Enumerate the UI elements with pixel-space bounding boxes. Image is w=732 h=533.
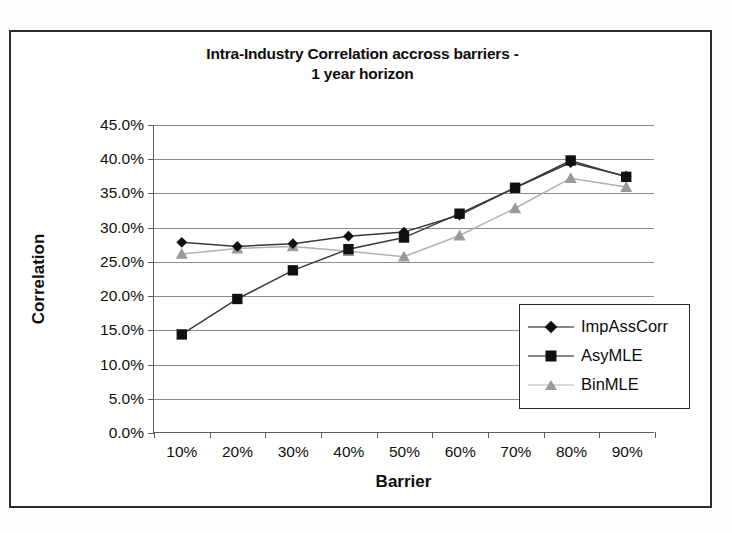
x-tick-label: 20% [222, 443, 253, 461]
square-marker-icon [510, 183, 520, 193]
legend-key-square [528, 347, 574, 365]
triangle-marker-icon [565, 172, 577, 183]
x-tick-mark [210, 432, 211, 438]
y-tick-label: 30.0% [100, 219, 144, 237]
y-tick-label: 20.0% [100, 287, 144, 305]
legend-label: BinMLE [581, 375, 639, 394]
x-tick-mark [488, 432, 489, 438]
square-marker-icon [343, 244, 353, 254]
square-marker-icon [546, 350, 557, 361]
x-tick-mark [599, 432, 600, 438]
x-tick-mark [321, 432, 322, 438]
chart-figure: Intra-Industry Correlation accross barri… [0, 0, 732, 533]
x-tick-label: 50% [389, 443, 420, 461]
y-tick-label: 15.0% [100, 321, 144, 339]
chart-title-line-1: Intra-Industry Correlation accross barri… [11, 44, 714, 64]
y-tick-label: 0.0% [109, 424, 144, 442]
x-tick-label: 40% [333, 443, 364, 461]
legend-item-binmle: BinMLE [520, 370, 689, 399]
x-tick-mark [377, 432, 378, 438]
x-tick-label: 60% [445, 443, 476, 461]
x-tick-mark [544, 432, 545, 438]
x-tick-label: 70% [500, 443, 531, 461]
y-axis-title: Correlation [29, 234, 49, 325]
legend-item-asymle: AsyMLE [520, 341, 689, 370]
triangle-marker-icon [509, 202, 521, 213]
x-tick-label: 90% [612, 443, 643, 461]
chart-border: Intra-Industry Correlation accross barri… [9, 30, 712, 508]
chart-legend: ImpAssCorr AsyMLE BinMLE [519, 304, 690, 409]
triangle-marker-icon [454, 230, 466, 241]
series-line [182, 178, 626, 256]
series-binmle [176, 172, 632, 261]
x-tick-mark [154, 432, 155, 438]
square-marker-icon [232, 294, 242, 304]
diamond-marker-icon [545, 320, 558, 333]
x-tick-mark [655, 432, 656, 438]
y-tick-label: 40.0% [100, 150, 144, 168]
square-marker-icon [288, 265, 298, 275]
x-tick-mark [265, 432, 266, 438]
diamond-marker-icon [176, 237, 187, 248]
legend-label: AsyMLE [581, 346, 642, 365]
y-tick-label: 5.0% [109, 390, 144, 408]
square-marker-icon [399, 232, 409, 242]
x-tick-mark [432, 432, 433, 438]
y-tick-label: 25.0% [100, 253, 144, 271]
legend-key-triangle [528, 376, 574, 394]
x-tick-label: 30% [278, 443, 309, 461]
triangle-marker-icon [545, 380, 557, 390]
legend-key-diamond [528, 318, 574, 336]
legend-item-impasscorr: ImpAssCorr [520, 312, 689, 341]
y-tick-label: 45.0% [100, 116, 144, 134]
chart-title: Intra-Industry Correlation accross barri… [11, 44, 714, 85]
x-tick-label: 10% [166, 443, 197, 461]
x-tick-label: 80% [556, 443, 587, 461]
y-tick-label: 35.0% [100, 184, 144, 202]
chart-title-line-2: 1 year horizon [11, 64, 714, 84]
x-axis-title: Barrier [153, 472, 654, 492]
square-marker-icon [454, 209, 464, 219]
y-tick-label: 10.0% [100, 356, 144, 374]
legend-label: ImpAssCorr [581, 317, 668, 336]
square-marker-icon [621, 172, 631, 182]
diamond-marker-icon [343, 231, 354, 242]
square-marker-icon [565, 155, 575, 165]
square-marker-icon [177, 329, 187, 339]
